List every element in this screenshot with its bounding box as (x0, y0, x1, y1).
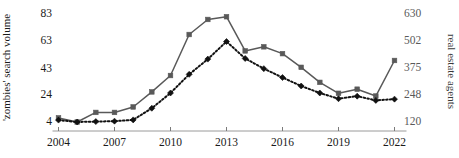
x-tick-label: 2004 (39, 137, 79, 149)
data-point-marker (131, 105, 136, 110)
y-tick-label-right: 630 (404, 8, 421, 20)
data-point-marker (392, 58, 397, 63)
data-point-marker (392, 96, 398, 102)
chart-figure: 'zombies' search volume real estate agen… (0, 0, 459, 158)
data-point-marker (336, 96, 342, 102)
data-point-marker (243, 49, 248, 54)
y-tick-label-right: 248 (404, 89, 421, 101)
data-point-marker (94, 110, 99, 115)
data-point-marker (355, 87, 360, 92)
data-point-marker (93, 119, 99, 125)
data-point-marker (224, 14, 229, 19)
data-point-marker (298, 83, 304, 89)
plot-area (0, 0, 459, 158)
y-tick-label-left: 63 (41, 35, 53, 47)
y-tick-label-left: 43 (41, 63, 53, 75)
data-point-marker (280, 51, 285, 56)
series-line-0 (59, 17, 395, 122)
data-point-marker (168, 73, 173, 78)
data-point-marker (150, 90, 155, 95)
data-point-marker (112, 118, 118, 124)
y-tick-label-right: 120 (404, 116, 421, 128)
x-tick-label: 2022 (375, 137, 415, 149)
data-point-marker (206, 17, 211, 22)
y-tick-label-right: 375 (404, 62, 421, 74)
x-tick-label: 2019 (319, 137, 359, 149)
x-tick-label: 2013 (207, 137, 247, 149)
x-tick-label: 2007 (95, 137, 135, 149)
y-tick-label-right: 502 (404, 35, 421, 47)
data-point-marker (318, 80, 323, 85)
data-point-marker (280, 75, 286, 81)
y-tick-label-left: 24 (41, 89, 53, 101)
series-line-1 (59, 42, 395, 122)
data-point-marker (317, 90, 323, 96)
data-point-marker (299, 65, 304, 70)
data-point-marker (112, 110, 117, 115)
y-tick-label-left: 83 (41, 8, 53, 20)
x-tick-label: 2016 (263, 137, 303, 149)
y-tick-label-left: 4 (46, 116, 52, 128)
data-point-marker (262, 45, 267, 50)
data-point-marker (336, 91, 341, 96)
x-tick-label: 2010 (151, 137, 191, 149)
data-point-marker (354, 93, 360, 99)
data-point-marker (187, 32, 192, 37)
